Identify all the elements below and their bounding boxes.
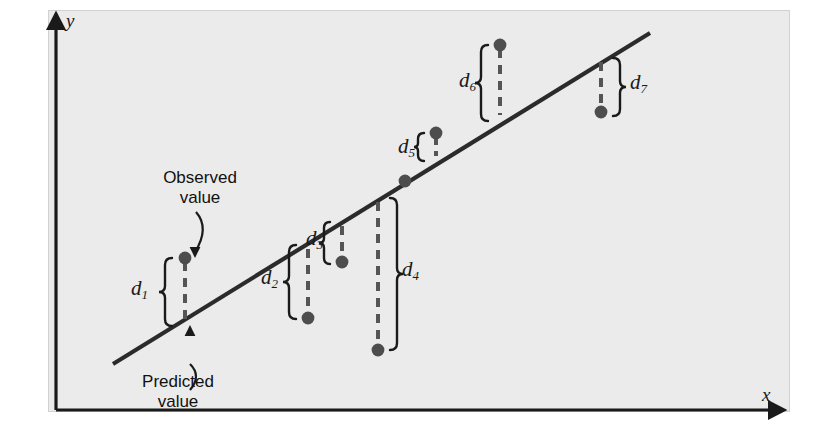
residual-label-d6-base: d — [459, 68, 470, 92]
brace-d1 — [159, 258, 172, 326]
observed-value-callout-line1: Observed — [140, 168, 260, 188]
residual-label-d5: d5 — [398, 136, 415, 159]
observed-value-arrowhead — [190, 247, 201, 258]
predicted-value-callout-line1: Predicted — [118, 372, 238, 392]
residual-label-d6: d6 — [459, 70, 476, 93]
residual-label-d3-sub: 3 — [317, 237, 324, 252]
residual-label-d4: d4 — [402, 259, 419, 282]
observed-value-callout-line2: value — [140, 188, 260, 208]
observed-point-d2 — [302, 312, 315, 325]
residual-label-d2-sub: 2 — [272, 276, 279, 291]
residual-label-d6-sub: 6 — [470, 79, 477, 94]
residual-label-d5-base: d — [398, 134, 409, 158]
y-axis-label: y — [66, 10, 74, 32]
observed-value-leader — [195, 212, 203, 252]
residual-label-d1-sub: 1 — [142, 287, 149, 302]
brace-d6 — [475, 45, 488, 121]
residual-label-d7-sub: 7 — [641, 81, 648, 96]
residual-label-d3: d3 — [306, 228, 323, 251]
observed-point-d1 — [179, 252, 192, 265]
observed-point-d4 — [372, 344, 385, 357]
observed-point-d7 — [595, 106, 608, 119]
regression-residuals-figure — [0, 0, 822, 436]
residual-label-d3-base: d — [306, 226, 317, 250]
figure-page: y x Observed value Predicted value d1 d2… — [0, 0, 822, 436]
observed-value-callout: Observed value — [140, 168, 260, 208]
point-on-regression-line — [399, 175, 412, 188]
residual-label-d7: d7 — [630, 72, 647, 95]
residual-label-d7-base: d — [630, 70, 641, 94]
residual-label-d2-base: d — [261, 265, 272, 289]
brace-d5 — [414, 133, 424, 161]
residual-label-d1: d1 — [131, 278, 148, 301]
residual-label-d2: d2 — [261, 267, 278, 290]
brace-d7 — [613, 58, 626, 116]
observed-point-d5 — [430, 127, 443, 140]
residual-label-d1-base: d — [131, 276, 142, 300]
predicted-value-callout: Predicted value — [118, 372, 238, 412]
residual-label-d5-sub: 5 — [409, 145, 416, 160]
residual-label-d4-sub: 4 — [413, 268, 420, 283]
predicted-value-callout-line2: value — [118, 392, 238, 412]
observed-point-d6 — [494, 39, 507, 52]
x-axis-label: x — [762, 384, 770, 406]
residual-label-d4-base: d — [402, 257, 413, 281]
observed-point-d3 — [336, 256, 349, 269]
panel-border — [49, 11, 790, 412]
predicted-value-arrowhead — [185, 325, 196, 336]
